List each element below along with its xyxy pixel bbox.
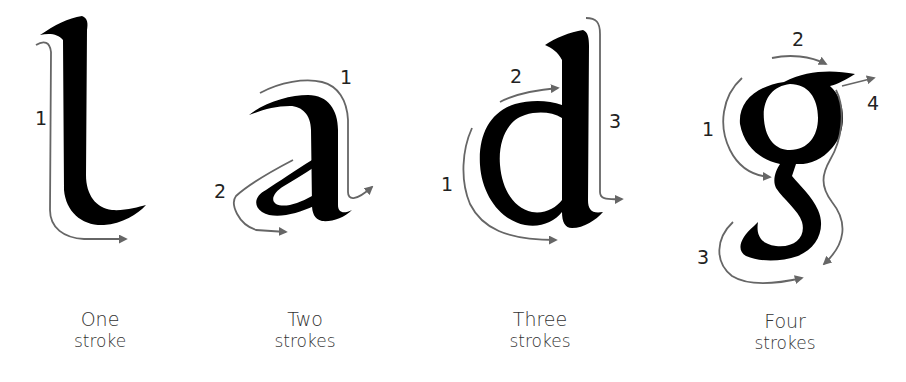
stroke-arrow-d-3 [586,18,622,199]
caption-count: Two [255,308,355,330]
letter-g-glyph [740,72,855,261]
caption-unit: strokes [255,330,355,352]
caption-three-strokes: Three strokes [490,308,590,352]
stroke-number-label: 4 [867,92,879,114]
caption-unit: strokes [490,330,590,352]
caption-count: Four [735,310,835,332]
stroke-number-label: 1 [340,66,352,88]
caption-unit: stroke [50,330,150,352]
stroke-number-label: 1 [35,107,47,129]
stroke-diagram: 1 1 2 1 2 3 1 2 3 4 [0,0,906,290]
caption-four-strokes: Four strokes [735,310,835,354]
stroke-number-label: 2 [510,65,522,87]
stroke-number-label: 3 [697,246,709,268]
stroke-number-label: 2 [792,28,804,50]
caption-count: Three [490,308,590,330]
letter-l-glyph [40,16,146,225]
letter-a-glyph [249,95,352,221]
stroke-number-label: 1 [702,118,714,140]
stroke-number-label: 1 [441,173,453,195]
caption-one-stroke: One stroke [50,308,150,352]
caption-unit: strokes [735,332,835,354]
stroke-number-label: 2 [214,180,226,202]
stroke-arrow-d-2 [500,88,558,102]
caption-count: One [50,308,150,330]
stroke-arrow-g-2 [772,56,826,64]
caption-two-strokes: Two strokes [255,308,355,352]
letter-d-glyph [480,30,603,228]
stroke-number-label: 3 [609,110,621,132]
